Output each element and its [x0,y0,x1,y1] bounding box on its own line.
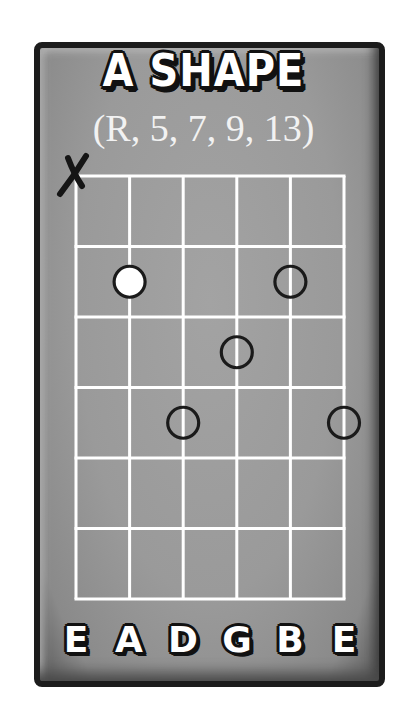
string-label-4: G [215,612,259,668]
fretboard-marks [60,156,360,438]
string-label-3: D [161,612,205,668]
string-label-5: B [268,612,312,668]
root-note-dot-icon [114,266,145,297]
string-label-1: E [54,612,98,668]
string-labels: E A D G B E [0,612,407,672]
fretboard-grid [75,176,346,599]
string-label-2: A [107,612,151,668]
fretboard-diagram [0,0,407,710]
string-label-6: E [322,612,366,668]
